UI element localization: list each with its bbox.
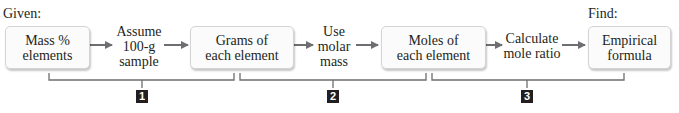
stage-badge-3: 3 bbox=[521, 90, 533, 103]
step-assume-sample: Assume100-gsample bbox=[112, 24, 166, 68]
step-line: molar bbox=[318, 39, 351, 54]
stage-badge-1: 1 bbox=[136, 90, 148, 103]
stage-badge-2: 2 bbox=[327, 90, 339, 103]
box-mass-percent: Mass %elements bbox=[5, 26, 90, 69]
step-molar-mass: Usemolarmass bbox=[311, 24, 357, 68]
box-line: Mass % bbox=[25, 33, 70, 48]
box-line: each element bbox=[397, 48, 470, 63]
box-grams: Grams ofeach element bbox=[190, 26, 294, 69]
step-line: Assume bbox=[116, 24, 161, 39]
box-line: elements bbox=[23, 48, 73, 63]
step-line: mole ratio bbox=[503, 46, 560, 61]
step-line: Use bbox=[323, 24, 345, 39]
box-line: formula bbox=[607, 48, 651, 63]
box-line: each element bbox=[205, 48, 278, 63]
step-line: mass bbox=[320, 54, 348, 69]
box-moles: Moles ofeach element bbox=[381, 26, 486, 69]
bracket-3 bbox=[432, 73, 624, 80]
step-line: Calculate bbox=[506, 31, 559, 46]
box-line: Grams of bbox=[216, 33, 269, 48]
step-line: sample bbox=[119, 54, 159, 69]
box-empirical-formula: Empiricalformula bbox=[588, 26, 671, 69]
box-line: Empirical bbox=[602, 33, 657, 48]
step-mole-ratio: Calculatemole ratio bbox=[500, 24, 564, 68]
box-line: Moles of bbox=[408, 33, 458, 48]
bracket-1 bbox=[49, 73, 234, 80]
step-line: 100-g bbox=[123, 39, 156, 54]
bracket-2 bbox=[240, 73, 426, 80]
